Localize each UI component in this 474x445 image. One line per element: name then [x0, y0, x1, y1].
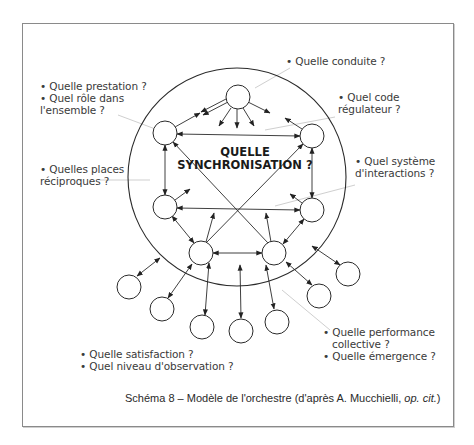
label-line: • Quel niveau d'observation ?: [80, 360, 234, 372]
node-bottom-right: [262, 241, 286, 265]
label-prestation-role: • Quelle prestation ? • Quel rôle dans l…: [40, 80, 147, 116]
label-line: • Quelles places: [40, 163, 124, 175]
label-line: réciproques ?: [40, 175, 124, 187]
node-upper-right: [300, 124, 324, 148]
label-line: • Quelle prestation ?: [40, 80, 147, 92]
caption-text: Schéma 8 – Modèle de l'orchestre (d'aprè…: [125, 392, 404, 404]
center-title-line2: SYNCHRONISATION ?: [170, 159, 320, 172]
node-bottom-left: [189, 241, 213, 265]
caption-italic: op. cit.: [404, 392, 436, 404]
caption-close: ): [437, 392, 441, 404]
orchestra-diagram: [0, 0, 474, 445]
figure-caption: Schéma 8 – Modèle de l'orchestre (d'aprè…: [125, 392, 440, 404]
label-line: • Quel système: [355, 155, 435, 167]
label-line: collective ?: [323, 338, 436, 350]
label-conduite: • Quelle conduite ?: [286, 55, 385, 67]
label-line: régulateur ?: [338, 103, 400, 115]
label-line: • Quelle émergence ?: [323, 350, 436, 362]
label-code-regulateur: • Quel code régulateur ?: [338, 91, 400, 115]
label-line: • Quelle conduite ?: [286, 55, 385, 67]
label-performance-emergence: • Quelle performance collective ? • Quel…: [323, 326, 436, 362]
label-places-reciproques: • Quelles places réciproques ?: [40, 163, 124, 187]
label-systeme-interactions: • Quel système d'interactions ?: [355, 155, 435, 179]
label-line: • Quelle performance: [323, 326, 436, 338]
node-lower-left: [153, 195, 177, 219]
node-lower-right: [300, 198, 324, 222]
label-line: • Quelle satisfaction ?: [80, 348, 234, 360]
inner-nodes: [153, 85, 324, 265]
center-title: QUELLE SYNCHRONISATION ?: [170, 146, 320, 172]
label-satisfaction-observation: • Quelle satisfaction ? • Quel niveau d'…: [80, 348, 234, 372]
label-line: d'interactions ?: [355, 167, 435, 179]
label-line: • Quel rôle dans: [40, 92, 147, 104]
node-upper-left: [153, 121, 177, 145]
node-top: [226, 85, 250, 109]
label-line: • Quel code: [338, 91, 400, 103]
label-line: l'ensemble ?: [40, 104, 147, 116]
